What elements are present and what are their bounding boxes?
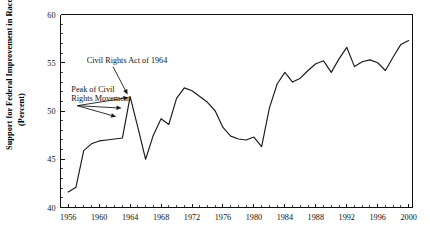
- y-tick-label: 55: [47, 59, 55, 68]
- x-tick-label: 1960: [91, 213, 107, 222]
- y-tick-label: 40: [47, 204, 55, 213]
- x-tick-label: 1984: [277, 213, 293, 222]
- x-tick-label: 1956: [60, 213, 76, 222]
- chart-axes: [61, 15, 413, 208]
- chart-figure: 4045505560 19561960196419681972197619801…: [0, 0, 430, 236]
- x-tick-label: 1968: [153, 213, 169, 222]
- annotation-arrow: [113, 67, 128, 95]
- y-tick-label: 50: [47, 107, 55, 116]
- y-axis-title-units: (Percent): [17, 93, 26, 126]
- x-tick-label: 1980: [246, 213, 262, 222]
- annotation-label-civil-rights-act: Civil Rights Act of 1964: [87, 56, 168, 65]
- y-tick-label: 45: [47, 155, 55, 164]
- chart-tick-marks: [61, 15, 409, 208]
- x-tick-label: 2000: [400, 213, 416, 222]
- y-axis-title: Support for Federal Improvement in Race …: [5, 0, 14, 150]
- x-tick-label: 1996: [369, 213, 385, 222]
- annotation-label-peak-line1: Peak of Civil: [71, 85, 115, 94]
- x-tick-label: 1964: [122, 213, 138, 222]
- x-tick-label: 1988: [308, 213, 324, 222]
- x-axis-tick-labels: 1956196019641968197219761980198419881992…: [60, 213, 417, 222]
- y-tick-label: 60: [47, 11, 55, 20]
- chart-annotations: Civil Rights Act of 1964Peak of CivilRig…: [71, 56, 167, 118]
- y-axis-tick-labels: 4045505560: [47, 11, 55, 213]
- line-chart: 4045505560 19561960196419681972197619801…: [0, 0, 430, 236]
- x-tick-label: 1972: [184, 213, 200, 222]
- x-tick-label: 1992: [339, 213, 355, 222]
- x-tick-label: 1976: [215, 213, 231, 222]
